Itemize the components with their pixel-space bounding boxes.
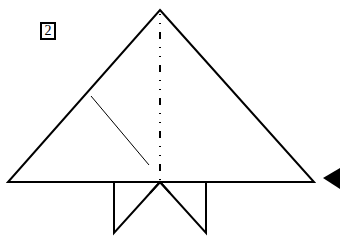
bottom-flaps (114, 182, 206, 233)
turn-over-arrow-icon (323, 168, 340, 189)
flap-apex (150, 182, 170, 193)
origami-diagram (0, 0, 343, 240)
